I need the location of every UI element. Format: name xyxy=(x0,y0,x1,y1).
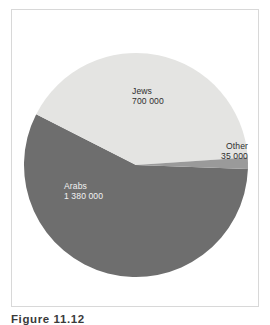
pie-label-other-value: 35 000 xyxy=(221,151,248,161)
pie-label-jews-name: Jews xyxy=(132,86,164,96)
pie-label-other: Other 35 000 xyxy=(221,141,248,162)
pie-label-jews-value: 700 000 xyxy=(132,96,164,106)
pie-label-other-name: Other xyxy=(221,141,248,151)
pie-label-jews: Jews 700 000 xyxy=(132,86,164,107)
figure-caption: Figure 11.12 xyxy=(11,313,85,325)
pie-label-arabs: Arabs 1 380 000 xyxy=(64,181,103,202)
pie-label-arabs-name: Arabs xyxy=(64,181,103,191)
pie-label-arabs-value: 1 380 000 xyxy=(64,191,103,201)
